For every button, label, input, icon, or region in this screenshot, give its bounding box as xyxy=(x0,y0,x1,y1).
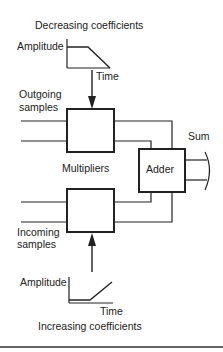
multipliers-label: Multipliers xyxy=(62,162,109,174)
decreasing-coefficient-graph xyxy=(67,39,110,68)
top-time-label: Time xyxy=(96,70,119,82)
sum-label: Sum xyxy=(188,130,210,142)
top-caption: Decreasing coefficients xyxy=(35,19,143,31)
increasing-coefficient-graph xyxy=(69,277,113,303)
incoming-label-1: Incoming xyxy=(17,226,60,238)
outgoing-label-2: samples xyxy=(19,101,58,113)
adder-label: Adder xyxy=(146,163,174,175)
bottom-time-label: Time xyxy=(100,305,123,317)
top-amplitude-label: Amplitude xyxy=(17,40,64,52)
sum-output-bracket xyxy=(205,152,210,190)
bottom-amplitude-label: Amplitude xyxy=(20,276,67,288)
bottom-multiplier-box xyxy=(67,189,114,232)
top-multiplier-box xyxy=(67,109,114,152)
bottom-caption: Increasing coefficients xyxy=(38,320,142,332)
incoming-label-2: samples xyxy=(17,238,56,250)
crossfade-diagram xyxy=(0,0,223,352)
outgoing-label-1: Outgoing xyxy=(19,88,62,100)
